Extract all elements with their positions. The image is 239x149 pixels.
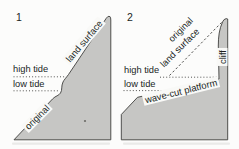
panel1-high-tide-label: high tide (13, 64, 48, 75)
panel2-high-tide-label: high tide (124, 65, 159, 76)
panel1-scan-shadow (12, 143, 110, 145)
panel1-low-tide-label: low tide (13, 79, 45, 90)
panel2-cliff-label: cliff (216, 48, 227, 66)
coastal-erosion-diagram: 1 high tide low tide land surface origin… (0, 0, 239, 149)
diagram-canvas (0, 0, 239, 149)
panel2-number: 2 (127, 12, 133, 23)
panel1-speck-artifact (84, 120, 86, 122)
panel1-number: 1 (16, 12, 22, 23)
panel2-scan-shadow (123, 143, 230, 145)
panel2-low-tide-label: low tide (124, 79, 156, 90)
